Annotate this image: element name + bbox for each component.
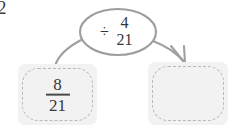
arrowhead-icon xyxy=(171,46,185,63)
answer-card[interactable] xyxy=(148,62,228,125)
input-denominator: 21 xyxy=(49,96,66,114)
input-to-operation-connector xyxy=(55,40,81,66)
divide-operator-icon: ÷ xyxy=(100,24,109,41)
operation-fraction: 4 21 xyxy=(113,15,136,48)
operation-to-output-connector xyxy=(153,41,184,62)
answer-input-slot[interactable] xyxy=(148,62,228,125)
input-numerator: 8 xyxy=(53,75,62,93)
input-value-card: 8 21 xyxy=(18,64,97,125)
fraction-division-diagram: 2 ÷ 4 21 8 21 xyxy=(0,0,233,129)
operation-bubble: ÷ 4 21 xyxy=(80,9,156,55)
operation-denominator: 21 xyxy=(116,32,132,49)
input-fraction: 8 21 xyxy=(18,75,97,114)
operation-numerator: 4 xyxy=(120,15,128,32)
